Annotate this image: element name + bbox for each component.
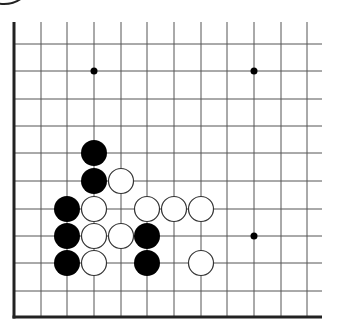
white-stone-icon [189,197,214,222]
black-stone-icon [134,250,160,276]
white-stone-icon [189,251,214,276]
star-point-icon [91,68,98,75]
go-board [0,0,338,334]
white-stone-icon [82,197,107,222]
white-stone-icon [109,224,134,249]
black-stone-icon [81,168,107,194]
black-stone-icon [54,196,80,222]
white-stone-icon [135,197,160,222]
black-stone-icon [54,223,80,249]
white-stone-icon [82,224,107,249]
board-edges [13,22,323,319]
black-stone-icon [134,223,160,249]
corner-label-arc [0,0,28,4]
black-stone-icon [54,250,80,276]
black-stone-icon [81,140,107,166]
white-stone-icon [82,251,107,276]
white-stone-icon [162,197,187,222]
stones [54,140,214,276]
star-point-icon [251,68,258,75]
star-point-icon [251,233,258,240]
white-stone-icon [109,169,134,194]
